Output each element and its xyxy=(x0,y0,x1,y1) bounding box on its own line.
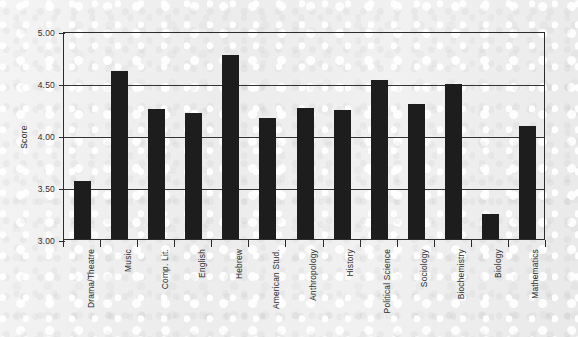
bar xyxy=(519,126,536,239)
bar xyxy=(297,108,314,239)
x-axis-tick-mark xyxy=(174,240,175,247)
y-axis-tick-label: 4.50 xyxy=(38,80,55,90)
bar xyxy=(445,84,462,239)
bars-layer xyxy=(64,33,544,239)
x-axis-tick-mark xyxy=(211,240,212,247)
x-axis-category-label: Biochemistry xyxy=(456,249,466,299)
y-axis-tick-label: 5.00 xyxy=(38,28,55,38)
bar xyxy=(111,71,128,239)
bar xyxy=(482,214,499,239)
y-axis-tick-label: 4.00 xyxy=(38,132,55,142)
x-axis-category-label: Biology xyxy=(493,249,503,278)
x-axis-category-label: Music xyxy=(123,249,133,272)
x-axis-tick-mark xyxy=(285,240,286,247)
x-axis-category-label: Mathematics xyxy=(530,249,540,299)
x-axis-tick-mark xyxy=(545,240,546,247)
x-axis-tick-mark xyxy=(434,240,435,247)
y-axis-title: Score xyxy=(19,125,29,149)
x-axis-tick-mark xyxy=(508,240,509,247)
plot-area: 5.004.504.003.503.00 xyxy=(63,32,545,240)
x-axis-category-label: Drama/Theatre xyxy=(86,249,96,308)
x-axis-category-label: Hebrew xyxy=(234,249,244,279)
y-axis-tick-mark xyxy=(59,241,65,242)
bar xyxy=(222,55,239,239)
bar xyxy=(74,181,91,239)
bar xyxy=(259,118,276,239)
x-axis-category-label: Sociology xyxy=(419,249,429,287)
bar xyxy=(185,113,202,239)
x-axis-tick-mark xyxy=(471,240,472,247)
x-axis-tick-mark xyxy=(100,240,101,247)
bar xyxy=(148,109,165,239)
x-axis-tick-mark xyxy=(323,240,324,247)
x-axis-tick-mark xyxy=(137,240,138,247)
x-axis-category-label: Comp. Lit. xyxy=(160,249,170,289)
bar xyxy=(408,104,425,239)
bar xyxy=(334,110,351,239)
bar-chart: Score 5.004.504.003.503.00 Drama/Theatre… xyxy=(0,0,578,337)
x-axis-category-label: American Stud. xyxy=(271,249,281,309)
x-axis-tick-mark xyxy=(397,240,398,247)
x-axis-category-label: Anthropology xyxy=(308,249,318,301)
y-axis-tick-label: 3.50 xyxy=(38,184,55,194)
x-axis-tick-mark xyxy=(63,240,64,247)
x-axis-category-label: History xyxy=(345,249,355,276)
y-axis-tick-label: 3.00 xyxy=(38,236,55,246)
bar xyxy=(371,80,388,239)
x-axis-tick-mark xyxy=(360,240,361,247)
x-axis-category-label: English xyxy=(197,249,207,278)
x-axis-category-label: Political Science xyxy=(382,249,392,313)
x-axis-tick-mark xyxy=(248,240,249,247)
